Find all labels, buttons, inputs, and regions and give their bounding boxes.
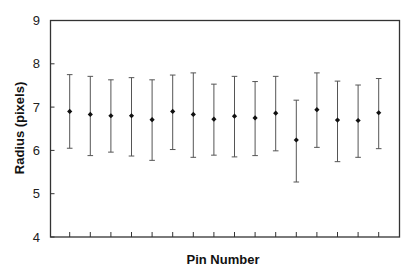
chart-background [0, 0, 414, 278]
y-tick-label: 5 [33, 186, 40, 201]
y-tick-label: 4 [33, 230, 40, 245]
y-tick-label: 9 [33, 13, 40, 28]
x-axis-title: Pin Number [187, 252, 260, 267]
y-tick-label: 8 [33, 56, 40, 71]
y-tick-label: 7 [33, 100, 40, 115]
y-axis-title: Radius (pixels) [12, 82, 27, 174]
error-bar-chart: 456789 Pin Number Radius (pixels) [0, 0, 414, 278]
y-tick-label: 6 [33, 143, 40, 158]
